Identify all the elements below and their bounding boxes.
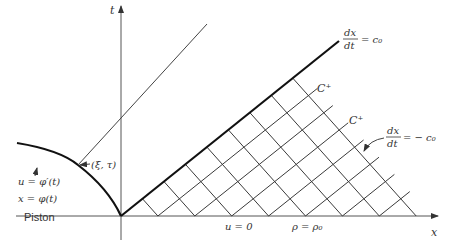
c-plus-characteristic: [232, 123, 349, 216]
svg-text:= − c₀: = − c₀: [403, 132, 436, 143]
c-plus-label-2: C⁺: [349, 114, 363, 127]
svg-text:dt: dt: [344, 40, 355, 51]
point-arrow-icon: [80, 164, 90, 165]
characteristic-grid: [143, 78, 417, 216]
t-axis-label: t: [110, 4, 115, 17]
piston-arrow-icon: [35, 168, 37, 176]
svg-text:dx: dx: [387, 125, 399, 136]
c-minus-characteristic: [186, 164, 232, 216]
svg-text:= c₀: = c₀: [361, 34, 382, 45]
piston-label: Piston: [24, 211, 55, 223]
c-minus-characteristic: [143, 199, 158, 216]
c-minus-characteristic: [229, 130, 306, 216]
backward-char-arrow-icon: [364, 138, 384, 151]
c-plus-characteristic: [158, 88, 317, 216]
backward-characteristic-label: dx dt = − c₀: [386, 125, 436, 149]
point-xi-tau-label: (ξ, τ): [91, 159, 116, 170]
density-label: ρ = ρ₀: [291, 221, 323, 232]
svg-text:dx: dx: [344, 27, 356, 38]
characteristics-diagram: t x dx dt = c₀ dx dt = − c₀ C⁺ C⁺ (ξ, τ)…: [0, 0, 454, 249]
leading-characteristic-line: [121, 41, 339, 216]
x-axis-label: x: [431, 226, 438, 239]
characteristic-from-piston-line: [78, 24, 207, 165]
piston-velocity-equation: u = φ′(t): [18, 176, 60, 187]
piston-position-equation: x = φ(t): [18, 193, 57, 204]
leading-characteristic-label: dx dt = c₀: [343, 27, 382, 51]
c-plus-characteristic: [195, 106, 333, 216]
svg-text:dt: dt: [387, 138, 398, 149]
velocity-zero-label: u = 0: [225, 221, 253, 232]
c-plus-label-1: C⁺: [317, 82, 331, 95]
c-plus-characteristic: [269, 140, 364, 216]
